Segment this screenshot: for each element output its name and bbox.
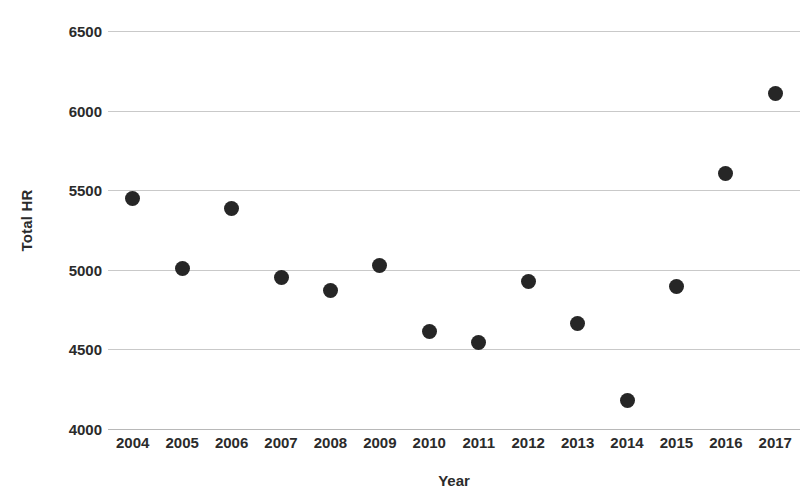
y-axis-title-label: Total HR [18,189,35,251]
data-point [323,283,338,298]
plot-area [108,31,800,429]
data-point [570,316,585,331]
x-axis-tick-label: 2017 [759,434,792,451]
x-axis-title: Year [108,472,800,489]
y-axis-tick-label: 4500 [44,341,102,358]
gridline [108,190,800,191]
y-axis-tick-label: 6000 [44,102,102,119]
data-point [125,191,140,206]
gridline [108,349,800,350]
chart-title-clipped [0,0,812,5]
x-axis-tick-label: 2005 [165,434,198,451]
x-axis-tick-labels: 2004200520062007200820092010201120122013… [108,434,800,458]
y-axis-tick-label: 4000 [44,421,102,438]
y-axis-tick-label: 5500 [44,182,102,199]
data-point [274,270,289,285]
x-axis-tick-label: 2013 [561,434,594,451]
y-axis-tick-label: 5000 [44,261,102,278]
x-axis-tick-label: 2010 [413,434,446,451]
data-point [224,201,239,216]
gridline [108,270,800,271]
data-point [620,393,635,408]
y-axis-tick-labels: 400045005000550060006500 [44,0,102,440]
data-point [669,279,684,294]
x-axis-tick-label: 2011 [462,434,495,451]
x-axis-tick-label: 2016 [709,434,742,451]
x-axis-tick-label: 2012 [511,434,544,451]
x-axis-tick-label: 2007 [264,434,297,451]
y-axis-title: Total HR [6,0,46,440]
gridline [108,111,800,112]
data-point [521,274,536,289]
x-axis-tick-label: 2015 [660,434,693,451]
x-axis-tick-label: 2009 [363,434,396,451]
data-point [471,335,486,350]
data-point [372,258,387,273]
gridline [108,31,800,32]
data-point [718,166,733,181]
data-point [175,261,190,276]
x-axis-tick-label: 2004 [116,434,149,451]
data-point [768,86,783,101]
y-axis-tick-label: 6500 [44,23,102,40]
x-axis-tick-label: 2008 [314,434,347,451]
x-axis-tick-label: 2006 [215,434,248,451]
gridline [108,429,800,430]
data-point [422,324,437,339]
scatter-chart: Total HR 400045005000550060006500 200420… [0,0,812,500]
x-axis-tick-label: 2014 [610,434,643,451]
